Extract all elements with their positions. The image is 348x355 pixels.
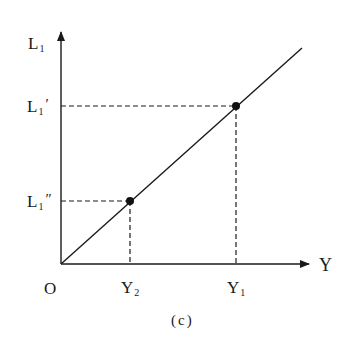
x-axis-label: Y: [319, 256, 332, 274]
y-axis-label: L1: [28, 35, 44, 54]
x-tick-sub: 1: [240, 287, 245, 298]
diagram-canvas: [0, 0, 348, 355]
y-tick-prime: ′: [45, 96, 48, 112]
point-lower: [126, 197, 134, 205]
origin-label-text: O: [44, 279, 56, 298]
x-tick-sub: 2: [134, 287, 139, 298]
y-tick-L1-prime: L1′: [27, 97, 49, 117]
x-tick-Y2: Y2: [121, 279, 139, 298]
y-tick-main: L: [27, 97, 37, 116]
y-tick-main: L: [27, 192, 37, 211]
x-axis-label-text: Y: [319, 255, 332, 275]
x-tick-main: Y: [227, 278, 239, 297]
origin-label: O: [44, 280, 56, 297]
y-tick-sub: 1: [38, 106, 43, 117]
caption-text: (c): [171, 312, 194, 328]
point-upper: [232, 102, 240, 110]
y-tick-prime: ″: [45, 191, 51, 207]
figure-caption: (c): [171, 313, 194, 328]
y-tick-sub: 1: [38, 201, 43, 212]
x-tick-main: Y: [121, 278, 133, 297]
y-axis-label-sub: 1: [39, 43, 44, 54]
x-tick-Y1: Y1: [227, 279, 245, 298]
y-axis-label-main: L: [28, 34, 38, 53]
y-tick-L1-double-prime: L1″: [27, 192, 52, 212]
main-line: [61, 48, 302, 264]
